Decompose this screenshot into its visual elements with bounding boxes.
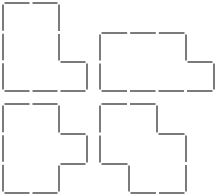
shape-top-right: [100, 33, 214, 91]
shape-top-left: [3, 3, 87, 91]
shape-bottom-right: [100, 104, 186, 193]
shape-bottom-left: [3, 104, 87, 193]
polyomino-diagram: [0, 0, 216, 194]
shapes-layer: [3, 3, 214, 193]
